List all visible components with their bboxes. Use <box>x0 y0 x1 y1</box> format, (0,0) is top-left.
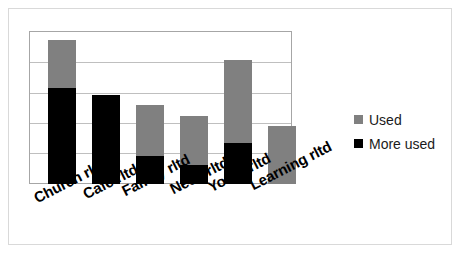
bar-youth-rltd[interactable] <box>224 32 252 184</box>
bar-segment-more-used[interactable] <box>136 156 164 184</box>
bar-segment-more-used[interactable] <box>92 95 120 184</box>
chart-container: Church rltdCafé rltdFamily rltdNeed rltd… <box>8 8 452 245</box>
legend-item-used[interactable]: Used <box>354 109 449 130</box>
bar-church-rltd[interactable] <box>48 32 76 184</box>
bar-segment-used[interactable] <box>268 126 296 184</box>
bar-segment-used[interactable] <box>224 60 252 143</box>
legend-label: Used <box>369 112 402 128</box>
legend-swatch-icon <box>354 115 363 124</box>
legend-label: More used <box>369 136 435 152</box>
bar-need-rltd[interactable] <box>180 32 208 184</box>
bar-family-rltd[interactable] <box>136 32 164 184</box>
legend-item-more-used[interactable]: More used <box>354 133 449 154</box>
chart-legend: UsedMore used <box>354 109 449 157</box>
bar-segment-more-used[interactable] <box>224 143 252 184</box>
bar-segment-more-used[interactable] <box>180 165 208 184</box>
legend-swatch-icon <box>354 139 363 148</box>
bar-segment-used[interactable] <box>48 40 76 88</box>
bar-learning-rltd[interactable] <box>268 32 296 184</box>
bar-segment-more-used[interactable] <box>48 88 76 184</box>
plot-area <box>29 31 292 184</box>
bar-caf-rltd[interactable] <box>92 32 120 184</box>
bar-segment-used[interactable] <box>180 116 208 165</box>
bar-segment-used[interactable] <box>136 105 164 156</box>
